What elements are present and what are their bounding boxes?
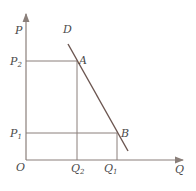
y-axis-label: P [14, 24, 23, 37]
q2-label: Q2 [71, 162, 85, 176]
x-axis-label: Q [175, 163, 184, 176]
p1-label: P1 [9, 127, 22, 141]
point-a-label: A [78, 54, 87, 67]
p2-label: P2 [9, 55, 22, 69]
curve-label: D [62, 23, 72, 36]
demand-diagram: P D A B P2 P1 O Q2 Q1 Q [0, 0, 196, 191]
point-b-label: B [120, 127, 129, 140]
q1-label: Q1 [104, 162, 118, 176]
origin-label: O [16, 161, 25, 174]
